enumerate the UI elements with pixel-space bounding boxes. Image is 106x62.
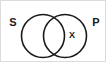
region-marker-x: X xyxy=(69,30,75,40)
venn-diagram-canvas: S P X xyxy=(1,1,106,62)
venn-diagram-figure: S P X xyxy=(0,0,106,62)
set-label-p: P xyxy=(92,16,99,28)
set-label-s: S xyxy=(9,16,16,28)
